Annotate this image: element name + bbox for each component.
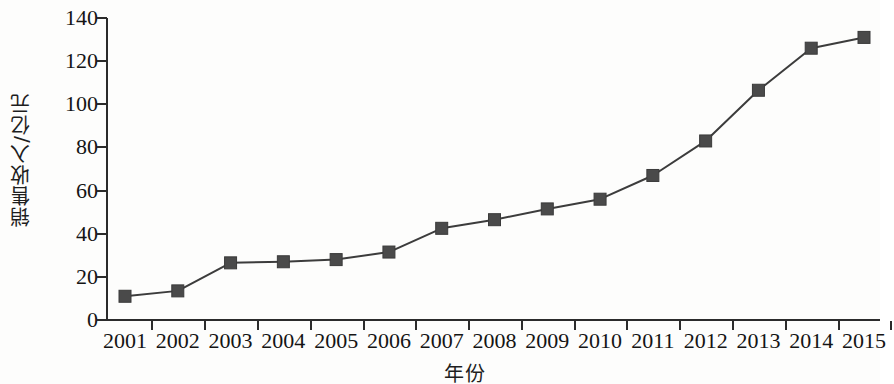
x-axis-tick-mark	[204, 321, 206, 330]
x-axis-tick-label: 2010	[570, 330, 630, 352]
y-axis-tick-label: 0	[38, 309, 98, 331]
y-axis-tick-label: 80	[38, 136, 98, 158]
y-axis-title-text: 销售收入/亿元	[11, 93, 31, 227]
data-point-marker	[277, 256, 289, 268]
y-axis-tick-label: 20	[38, 266, 98, 288]
plot-area	[106, 18, 878, 320]
x-axis-tick-label: 2008	[465, 330, 525, 352]
y-axis-tick-label: 40	[38, 223, 98, 245]
y-axis-tick-mark	[97, 190, 107, 192]
data-point-marker	[594, 193, 606, 205]
x-axis-tick-label: 2006	[359, 330, 419, 352]
x-axis-tick-mark	[310, 321, 312, 330]
x-axis-tick-label: 2004	[253, 330, 313, 352]
y-axis-tick-mark	[97, 233, 107, 235]
x-axis-tick-label: 2009	[517, 330, 577, 352]
y-axis-tick-label: 100	[38, 93, 98, 115]
data-point-marker	[489, 214, 501, 226]
y-axis-tick-mark	[97, 146, 107, 148]
x-axis-tick-label: 2002	[148, 330, 208, 352]
x-axis-tick-mark	[521, 321, 523, 330]
y-axis-tick-mark	[97, 276, 107, 278]
data-point-marker	[225, 257, 237, 269]
x-axis-tick-mark	[679, 321, 681, 330]
data-point-marker	[436, 222, 448, 234]
x-axis-tick-mark	[890, 321, 892, 330]
y-axis-tick-mark	[97, 319, 107, 321]
data-point-marker	[172, 285, 184, 297]
x-axis-tick-mark	[574, 321, 576, 330]
x-axis-tick-label: 2015	[834, 330, 894, 352]
y-axis-tick-labels: 020406080100120140	[38, 0, 98, 384]
data-point-marker	[805, 42, 817, 54]
y-axis-tick-mark	[97, 60, 107, 62]
x-axis-title: 年份	[0, 358, 880, 384]
y-axis-tick-label: 60	[38, 180, 98, 202]
x-axis-tick-label: 2005	[306, 330, 366, 352]
x-axis-tick-label: 2014	[781, 330, 841, 352]
y-axis-tick-label: 140	[38, 7, 98, 29]
x-axis-tick-labels: 2001200220032004200520062007200820092010…	[106, 330, 880, 360]
data-point-marker	[383, 246, 395, 258]
y-axis-title: 销售收入/亿元	[2, 0, 40, 320]
series-line-sales-revenue	[106, 18, 878, 320]
data-point-marker	[700, 135, 712, 147]
x-axis-tick-mark	[838, 321, 840, 330]
x-axis-tick-mark	[626, 321, 628, 330]
y-axis-tick-label: 120	[38, 50, 98, 72]
data-point-marker	[330, 254, 342, 266]
x-axis-tick-mark	[257, 321, 259, 330]
x-axis-tick-mark	[468, 321, 470, 330]
x-axis-title-text: 年份	[444, 358, 486, 384]
x-axis-tick-label: 2007	[412, 330, 472, 352]
y-axis-tick-mark	[97, 17, 107, 19]
x-axis-tick-mark	[151, 321, 153, 330]
x-axis-tick-mark	[732, 321, 734, 330]
x-axis-tick-label: 2001	[95, 330, 155, 352]
x-axis-tick-label: 2003	[201, 330, 261, 352]
data-point-marker	[647, 169, 659, 181]
data-point-marker	[752, 84, 764, 96]
x-axis-tick-label: 2012	[676, 330, 736, 352]
x-axis-tick-mark	[363, 321, 365, 330]
x-axis-tick-label: 2013	[728, 330, 788, 352]
data-point-marker	[119, 290, 131, 302]
data-point-marker	[541, 203, 553, 215]
x-axis-tick-label: 2011	[623, 330, 683, 352]
x-axis-tick-mark	[785, 321, 787, 330]
x-axis-tick-mark	[415, 321, 417, 330]
data-point-marker	[858, 31, 870, 43]
y-axis-tick-mark	[97, 103, 107, 105]
